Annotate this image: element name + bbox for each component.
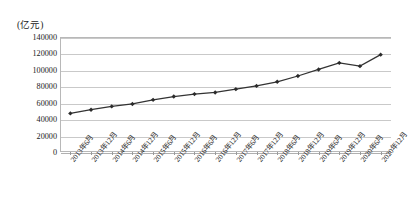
gridline xyxy=(61,120,391,121)
y-axis-tick-label: 20000 xyxy=(1,131,57,140)
gridline xyxy=(61,87,391,88)
y-axis-tick-label: 60000 xyxy=(1,98,57,107)
y-axis-tick-labels: 020000400006000080000100000120000140000 xyxy=(0,0,57,213)
y-axis-tick-label: 40000 xyxy=(1,115,57,124)
gridline xyxy=(61,104,391,105)
gridline xyxy=(61,54,391,55)
gridline xyxy=(61,38,391,39)
y-axis-tick-label: 140000 xyxy=(1,33,57,42)
gridline xyxy=(61,71,391,72)
y-axis-tick-label: 0 xyxy=(1,148,57,157)
y-axis-tick-label: 120000 xyxy=(1,49,57,58)
y-axis-tick-label: 100000 xyxy=(1,65,57,74)
y-axis-tick-label: 80000 xyxy=(1,82,57,91)
